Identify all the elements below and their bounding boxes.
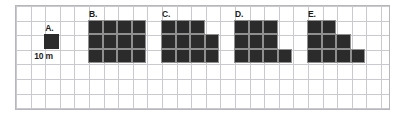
shape-cell [190, 20, 205, 35]
shape-cell [44, 34, 59, 49]
shape-cell [103, 49, 118, 64]
shape-cell [278, 49, 293, 64]
shape-label-a: A. [45, 24, 53, 33]
shape-cell [132, 34, 147, 49]
shape-label-c: C. [162, 10, 170, 19]
shape-cell [205, 49, 220, 64]
figure-canvas: A.10 mB.C.D.E. [0, 0, 407, 120]
shape-cell [336, 49, 351, 64]
shape-label-e: E. [308, 10, 316, 19]
shape-cell [351, 49, 366, 64]
shape-cell [234, 20, 249, 35]
shape-cell [103, 20, 118, 35]
shape-label-b: B. [89, 10, 97, 19]
shape-cell [88, 34, 103, 49]
shape-cell [322, 20, 337, 35]
shape-cell [103, 34, 118, 49]
shape-cell [336, 34, 351, 49]
shape-cell [132, 20, 147, 35]
shape-cell [263, 34, 278, 49]
shape-cell [161, 20, 176, 35]
shape-cell [322, 49, 337, 64]
shape-cell [117, 49, 132, 64]
shape-cell [190, 49, 205, 64]
shape-cell [176, 20, 191, 35]
shape-cell [88, 49, 103, 64]
shape-label-d: D. [235, 10, 243, 19]
shape-caption-a: 10 m [34, 52, 53, 61]
shape-cell [117, 20, 132, 35]
shape-cell [234, 34, 249, 49]
shape-cell [307, 34, 322, 49]
shape-cell [249, 49, 264, 64]
shape-cell [205, 34, 220, 49]
shape-cell [88, 20, 103, 35]
shape-cell [176, 49, 191, 64]
shape-cell [176, 34, 191, 49]
shape-cell [117, 34, 132, 49]
shape-cell [249, 20, 264, 35]
shape-cell [161, 49, 176, 64]
shape-cell [234, 49, 249, 64]
shape-cell [322, 34, 337, 49]
shape-cell [132, 49, 147, 64]
shape-cell [190, 34, 205, 49]
shape-cell [307, 49, 322, 64]
shape-cell [161, 34, 176, 49]
shape-cell [263, 49, 278, 64]
shape-cell [249, 34, 264, 49]
shape-cell [307, 20, 322, 35]
shape-cell [263, 20, 278, 35]
